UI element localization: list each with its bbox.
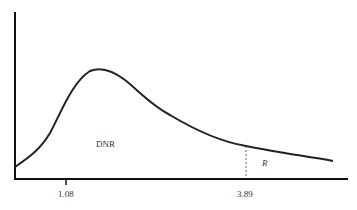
density-chart xyxy=(0,0,357,210)
region-label-dnr: DNR xyxy=(96,139,115,149)
density-curve xyxy=(15,69,333,167)
tick-label-1: 1.08 xyxy=(58,189,74,199)
region-label-r: R xyxy=(262,158,268,168)
tick-label-2: 3.89 xyxy=(237,189,253,199)
